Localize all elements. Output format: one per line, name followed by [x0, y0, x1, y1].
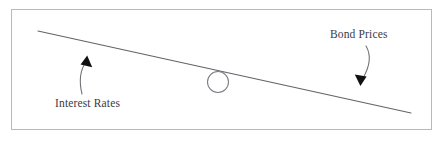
figure-canvas: Interest Rates Bond Prices [0, 0, 446, 142]
label-interest-rates: Interest Rates [55, 98, 120, 110]
label-bond-prices: Bond Prices [330, 29, 388, 41]
